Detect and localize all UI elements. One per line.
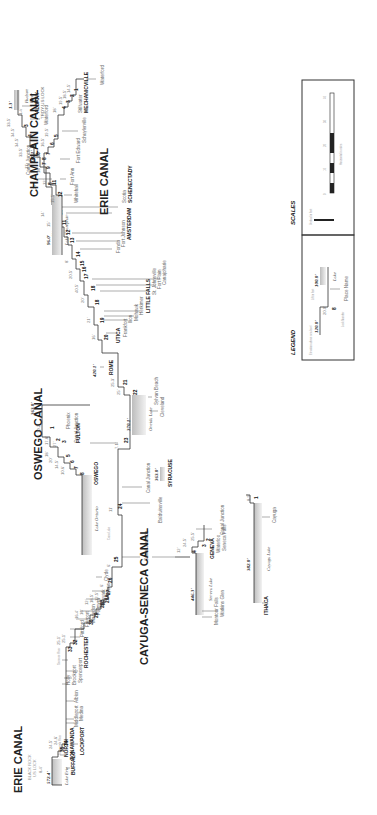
cayuga-profile-line — [246, 495, 254, 603]
canal-profile-diagram: ERIE CANAL BLACK ROCK US LOCK 8.4' 572.4… — [0, 0, 377, 815]
city-oswego: OSWEGO — [93, 462, 99, 485]
lock-34: 34 — [64, 740, 69, 746]
lake-champlain — [52, 195, 62, 255]
lock-6: 7 — [42, 162, 47, 165]
lift-32: 25.1' — [61, 634, 66, 643]
lock-20: 20 — [104, 334, 109, 340]
lock-24: 24 — [118, 503, 123, 509]
oswego-lock-2: 2 — [56, 438, 61, 441]
lock-17: 18 — [91, 285, 96, 291]
lift-18: 20' — [80, 297, 85, 303]
scales: SCALES Vertical in feet 0 10 20 30 40 Ho… — [290, 80, 354, 235]
horizontal-scale-bar — [330, 93, 334, 193]
erie-east-title: ERIE CANAL — [98, 147, 110, 215]
oswego-lock-5: 5 — [66, 454, 71, 457]
scales-title: SCALES — [290, 201, 296, 225]
oswego-lift-3: 27' — [52, 441, 57, 447]
place-herkimer: Herkimer — [139, 296, 144, 315]
lift-9: 14' — [40, 211, 45, 217]
seneca-lake-label: Seneca Lake — [208, 578, 213, 601]
champlain-lock-11: 11 — [52, 180, 57, 185]
legend-lock: 8 — [332, 307, 337, 310]
city-amsterdam: AMSTERDAM — [126, 208, 132, 241]
place-fort-ann: Fort Ann — [70, 167, 75, 185]
champlain-lock-7: 7 — [46, 152, 51, 155]
city-schenectady: SCHENECTADY — [127, 165, 133, 203]
cayuga-lake-label: Cayuga Lake — [266, 547, 271, 571]
city-little-falls: LITTLE FALLS — [145, 278, 151, 313]
city-utica: UTICA — [115, 327, 121, 343]
lift-10: 15' — [46, 221, 51, 227]
oswego-lock-6: 6 — [70, 460, 75, 463]
legend-place: Place Name — [344, 276, 349, 301]
lock-13: 14 — [76, 251, 81, 257]
legend: LEGEND Elevation above sea level 120.0' … — [290, 235, 354, 360]
lock-15: 16 — [82, 266, 87, 272]
city-tonawanda: TONAWANDA — [69, 727, 75, 760]
lift-22: 25' — [116, 389, 121, 395]
lock-27: 27 — [106, 589, 111, 595]
lift-26: 6' — [99, 584, 104, 587]
oswego-lift-8: 10.6' — [60, 466, 65, 475]
champlain-canal: CHAMPLAIN CANAL 96.0' Lake Champlain Whi… — [28, 65, 105, 255]
lock-12: 13 — [70, 237, 75, 243]
syracuse-elevation: 363.0' — [154, 468, 159, 482]
city-rome: ROME — [108, 359, 114, 375]
lock-22: 22 — [133, 389, 138, 395]
place-holly: Holly — [66, 674, 71, 685]
black-rock-lift: 8.4' — [38, 766, 43, 773]
oswego-lift-6: 20' — [48, 457, 53, 463]
city-lockport: LOCKPORT — [79, 727, 85, 755]
hudson-river — [14, 90, 20, 110]
place-canajoharie: Canajoharie — [162, 260, 167, 285]
champlain-lift-6: 16.5' — [40, 138, 45, 147]
lift-29: 16' — [79, 609, 84, 615]
lift-4: 34.5' — [14, 138, 19, 147]
lift-21: 25.3' — [110, 378, 115, 387]
legend-elev-b: 100.0' — [314, 274, 319, 287]
lake-ontario-label: Lake Ontario — [94, 506, 99, 532]
place-schuylerville: Schuylerville — [82, 117, 87, 143]
oneida-lake — [132, 395, 146, 435]
oswego-lock-3: 3 — [62, 440, 67, 443]
oswego-top-elevation: 363.0' — [30, 402, 35, 416]
place-brockport: Brockport — [72, 665, 77, 685]
champlain-lock-8: 8 — [42, 157, 47, 160]
place-medina: Medina — [79, 705, 84, 721]
scale-tick-30: 30 — [323, 120, 327, 123]
champlain-lift-4: 18' — [52, 107, 57, 113]
champlain-lift-8: 11' — [36, 154, 41, 159]
cs-lift-2: 25.5' — [190, 532, 195, 541]
champlain-lift-12: 15.5' — [50, 194, 55, 203]
place-cleveland: Cleveland — [160, 396, 165, 417]
champlain-lift-5: 19.5' — [44, 128, 49, 137]
city-syracuse: SYRACUSE — [167, 459, 173, 487]
lift-27: 12.5' — [94, 592, 99, 601]
cayuga-lake — [254, 503, 262, 603]
oswego-lift-5: 18' — [44, 451, 49, 457]
place-ilion: Ilion — [128, 314, 133, 323]
seneca-elevation: 446.3' — [190, 588, 195, 602]
champlain-lift-9: 18' — [36, 167, 41, 173]
champlain-title: CHAMPLAIN CANAL — [28, 89, 40, 197]
oswego-lift-7: 14.5' — [54, 460, 59, 469]
lake-erie — [52, 759, 62, 785]
legend-lake: Lake — [332, 272, 337, 282]
scale-horizontal-label: Horizontal in miles — [339, 143, 343, 165]
cs-lock-4: 4 — [192, 550, 197, 553]
city-fulton: FULTON — [75, 423, 81, 443]
city-ithaca: ITHACA — [263, 596, 269, 615]
lock-23: 23 — [124, 437, 129, 443]
lock-21: 21 — [123, 379, 128, 385]
scale-tick-40: 40 — [323, 96, 327, 99]
place-albion: Albion — [74, 690, 79, 703]
oswego-lift-1: 10.2' — [36, 424, 41, 433]
lift-19: 21' — [86, 317, 91, 323]
scale-tick-20: 20 — [323, 144, 327, 147]
cs-lift-3: 24.5' — [182, 538, 187, 547]
lock-25: 25 — [114, 556, 119, 562]
lift-14: 8' — [64, 260, 69, 263]
scale-tick-0: 0 — [323, 193, 327, 195]
cayuga-seneca-title: CAYUGA-SENECA CANAL — [138, 527, 150, 665]
champlain-lift-11: 12' — [42, 179, 47, 185]
